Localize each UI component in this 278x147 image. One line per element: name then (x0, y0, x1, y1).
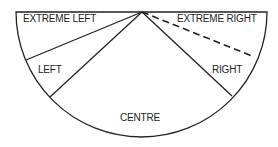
label-extreme-right: EXTREME RIGHT (177, 13, 257, 24)
left-centre-boundary (50, 12, 142, 97)
centre-right-boundary (142, 12, 232, 96)
label-extreme-left: EXTREME LEFT (23, 13, 96, 24)
label-centre: CENTRE (120, 112, 160, 123)
label-right: RIGHT (212, 64, 242, 75)
label-left: LEFT (38, 64, 62, 75)
